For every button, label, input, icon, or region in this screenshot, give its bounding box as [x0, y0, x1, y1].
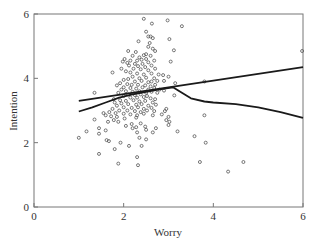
data-point: [167, 124, 170, 127]
y-tick-label: 2: [24, 137, 30, 149]
data-point: [113, 148, 116, 151]
data-point: [204, 141, 207, 144]
data-point: [122, 106, 125, 109]
data-point: [151, 114, 154, 117]
data-point: [151, 101, 154, 104]
data-point: [98, 132, 101, 135]
data-point: [129, 87, 132, 90]
data-point: [126, 83, 129, 86]
data-point: [121, 60, 124, 63]
data-point: [93, 118, 96, 121]
data-point: [141, 62, 144, 65]
x-axis-tick-labels: 0246: [31, 210, 306, 222]
data-point: [173, 94, 176, 97]
data-point: [124, 90, 127, 93]
data-point: [119, 82, 122, 85]
data-point: [119, 141, 122, 144]
data-point: [132, 67, 135, 70]
data-point: [169, 60, 172, 63]
data-point: [136, 96, 139, 99]
data-point: [111, 107, 114, 110]
data-point: [131, 75, 134, 78]
data-point: [115, 115, 118, 118]
data-point: [166, 19, 169, 22]
data-point: [127, 50, 130, 53]
data-point: [142, 107, 145, 110]
chart-canvas: 0246 0246 Worry Intention: [0, 0, 316, 244]
data-point: [180, 25, 183, 28]
data-point: [154, 50, 157, 53]
data-point: [98, 127, 101, 130]
plot-border: [34, 14, 303, 207]
data-point: [117, 91, 120, 94]
data-point: [98, 152, 101, 155]
data-point: [114, 112, 117, 115]
data-point: [117, 120, 120, 123]
data-point: [154, 98, 157, 101]
axis-ticks: [34, 14, 303, 207]
x-axis-label: Worry: [154, 226, 182, 238]
data-point: [130, 83, 133, 86]
data-point: [134, 51, 137, 54]
data-point: [124, 124, 127, 127]
data-point: [154, 67, 157, 70]
linear-fit-line: [79, 67, 303, 101]
data-point: [149, 54, 152, 57]
data-point: [154, 83, 157, 86]
y-axis-tick-labels: 0246: [24, 8, 30, 213]
data-point: [144, 125, 147, 128]
plot-area-frame: [34, 14, 303, 207]
data-point: [130, 106, 133, 109]
data-point: [147, 69, 150, 72]
data-point: [168, 120, 171, 123]
data-point: [133, 110, 136, 113]
data-point: [144, 99, 147, 102]
data-point: [140, 58, 143, 61]
data-point: [140, 144, 143, 147]
data-point: [122, 112, 125, 115]
data-point: [110, 115, 113, 118]
data-point: [142, 73, 145, 76]
data-point: [129, 96, 132, 99]
data-point: [157, 73, 160, 76]
data-point: [163, 79, 166, 82]
data-point: [128, 64, 131, 67]
data-point: [135, 126, 138, 129]
data-point: [124, 99, 127, 102]
data-point: [137, 164, 140, 167]
data-point: [145, 138, 148, 141]
data-point: [139, 122, 142, 125]
data-point: [139, 68, 142, 71]
data-point: [149, 85, 152, 88]
data-point: [139, 111, 142, 114]
data-point: [115, 84, 118, 87]
data-point: [160, 113, 163, 116]
data-point: [123, 117, 126, 120]
data-point: [145, 58, 148, 61]
data-point: [140, 103, 143, 106]
data-point: [151, 37, 154, 40]
data-point: [150, 72, 153, 75]
y-tick-label: 4: [24, 72, 30, 84]
data-point: [145, 76, 148, 79]
data-point: [146, 109, 149, 112]
data-point: [153, 77, 156, 80]
data-point: [165, 119, 168, 122]
data-point: [118, 109, 121, 112]
data-point: [115, 104, 118, 107]
data-point: [142, 96, 145, 99]
data-point: [93, 91, 96, 94]
data-point: [168, 38, 171, 41]
loess-smooth-line: [79, 87, 303, 118]
data-point: [120, 67, 123, 70]
data-point: [135, 87, 138, 90]
data-point: [141, 86, 144, 89]
data-point: [113, 101, 116, 104]
data-point: [142, 17, 145, 20]
data-point: [107, 120, 110, 123]
data-point: [150, 22, 153, 25]
data-point: [132, 99, 135, 102]
data-point: [147, 104, 150, 107]
data-point: [154, 127, 157, 130]
data-point: [112, 119, 115, 122]
